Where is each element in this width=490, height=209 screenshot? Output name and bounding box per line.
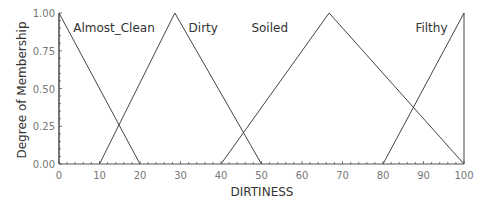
series-soiled-line bbox=[221, 13, 464, 164]
y-tick-label: 0.75 bbox=[33, 46, 55, 57]
x-tick-label: 30 bbox=[174, 170, 187, 181]
series-label: Soiled bbox=[251, 21, 288, 35]
series-filthy-line bbox=[383, 13, 464, 164]
series-label: Almost_Clean bbox=[73, 21, 155, 35]
x-tick-label: 20 bbox=[134, 170, 147, 181]
membership-chart: 01020304050607080901000.000.250.500.751.… bbox=[0, 0, 490, 209]
x-axis-label: DIRTINESS bbox=[231, 185, 294, 199]
x-tick-label: 0 bbox=[56, 170, 62, 181]
x-tick-label: 90 bbox=[417, 170, 430, 181]
series-label: Filthy bbox=[415, 21, 447, 35]
y-axis-label: Degree of Membership bbox=[15, 21, 29, 158]
y-tick-label: 0.50 bbox=[33, 84, 55, 95]
x-tick-label: 50 bbox=[255, 170, 268, 181]
series-label: Dirty bbox=[189, 21, 218, 35]
series-lines bbox=[59, 13, 464, 164]
x-tick-label: 80 bbox=[377, 170, 390, 181]
x-tick-label: 100 bbox=[454, 170, 473, 181]
x-tick-label: 70 bbox=[336, 170, 349, 181]
y-tick-label: 1.00 bbox=[33, 8, 55, 19]
y-tick-label: 0.00 bbox=[33, 159, 55, 170]
series-almost-clean-line bbox=[59, 13, 140, 164]
y-tick-label: 0.25 bbox=[33, 121, 55, 132]
x-tick-label: 10 bbox=[93, 170, 106, 181]
series-labels: Almost_CleanDirtySoiledFilthy bbox=[73, 21, 447, 35]
x-tick-label: 60 bbox=[296, 170, 309, 181]
x-tick-label: 40 bbox=[215, 170, 228, 181]
